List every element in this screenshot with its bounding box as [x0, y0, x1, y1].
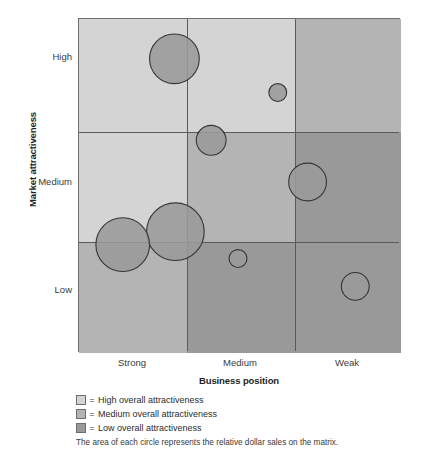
bubble-2: [269, 84, 287, 102]
y-tick-low: Low: [8, 284, 72, 295]
y-tick-high: High: [8, 51, 72, 62]
legend-swatch-low-icon: [76, 423, 86, 433]
bubble-3: [196, 125, 226, 155]
x-tick-medium: Medium: [186, 355, 294, 371]
y-tick-medium: Medium: [8, 176, 72, 187]
x-axis-tick-labels: Strong Medium Weak: [78, 355, 400, 371]
bubble-8: [341, 272, 369, 300]
bubble-1: [150, 34, 200, 84]
matrix-plot-area: [78, 18, 400, 352]
legend-swatch-medium-icon: [76, 409, 86, 419]
bubble-5: [147, 203, 205, 261]
legend-item-high: = High overall attractiveness: [76, 393, 406, 406]
legend-label-high: High overall attractiveness: [98, 395, 204, 405]
x-tick-strong: Strong: [78, 355, 186, 371]
x-axis-title: Business position: [78, 375, 400, 386]
y-axis-tick-labels: High Medium Low: [8, 0, 72, 352]
legend-label-medium: Medium overall attractiveness: [98, 409, 217, 419]
legend-item-medium: = Medium overall attractiveness: [76, 407, 406, 420]
bubble-6: [96, 218, 150, 272]
chart-footnote: The area of each circle represents the r…: [76, 438, 416, 447]
legend-label-low: Low overall attractiveness: [98, 423, 202, 433]
bubble-7: [229, 250, 247, 268]
legend-equals-medium: =: [86, 409, 98, 419]
x-tick-weak: Weak: [294, 355, 400, 371]
bubble-layer: [79, 19, 399, 351]
legend-equals-high: =: [86, 395, 98, 405]
legend: = High overall attractiveness = Medium o…: [76, 393, 406, 435]
legend-item-low: = Low overall attractiveness: [76, 421, 406, 434]
legend-equals-low: =: [86, 423, 98, 433]
ge-mckinsey-matrix-figure: Market attractiveness High Medium Low: [0, 0, 421, 462]
bubble-4: [289, 163, 327, 201]
legend-swatch-high-icon: [76, 395, 86, 405]
